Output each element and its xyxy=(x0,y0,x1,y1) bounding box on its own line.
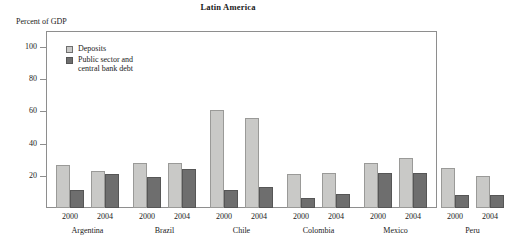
x-axis-year-label: 2000 xyxy=(435,212,475,221)
y-axis-tick-label: 20 xyxy=(0,172,37,180)
x-axis-year-label: 2000 xyxy=(204,212,244,221)
x-axis-year-label: 2004 xyxy=(239,212,279,221)
x-axis-year-label: 2004 xyxy=(470,212,508,221)
x-axis-year-label: 2004 xyxy=(85,212,125,221)
x-axis-year-label: 2000 xyxy=(281,212,321,221)
bar-peru-2004-deposits xyxy=(476,176,490,208)
chart-title: Latin America xyxy=(0,2,456,12)
y-axis-tick-label: 60 xyxy=(0,107,37,115)
bar-peru-2004-debt xyxy=(490,195,504,208)
bars-layer xyxy=(46,31,437,208)
bar-chile-2004-deposits xyxy=(245,118,259,208)
bar-colombia-2004-deposits xyxy=(322,173,336,208)
x-axis-year-label: 2000 xyxy=(50,212,90,221)
bar-peru-2000-deposits xyxy=(441,168,455,208)
bar-chile-2000-deposits xyxy=(210,110,224,208)
bar-mexico-2004-deposits xyxy=(399,158,413,208)
x-axis-year-label: 2000 xyxy=(358,212,398,221)
bar-chile-2000-debt xyxy=(224,190,238,208)
bar-brazil-2000-debt xyxy=(147,177,161,208)
bar-brazil-2004-debt xyxy=(182,169,196,208)
bar-argentina-2004-deposits xyxy=(91,171,105,208)
x-axis-year-label: 2004 xyxy=(162,212,202,221)
bar-argentina-2004-debt xyxy=(105,174,119,208)
bar-mexico-2000-deposits xyxy=(364,163,378,208)
bar-argentina-2000-deposits xyxy=(56,165,70,208)
bar-colombia-2000-debt xyxy=(301,198,315,208)
y-axis-tick-label: 40 xyxy=(0,140,37,148)
bar-brazil-2004-deposits xyxy=(168,163,182,208)
x-axis-country-label-peru: Peru xyxy=(428,226,508,235)
y-axis-tick-label: 80 xyxy=(0,75,37,83)
bar-mexico-2004-debt xyxy=(413,173,427,208)
bar-mexico-2000-debt xyxy=(378,173,392,208)
bar-brazil-2000-deposits xyxy=(133,163,147,208)
bar-peru-2000-debt xyxy=(455,195,469,208)
bar-colombia-2000-deposits xyxy=(287,174,301,208)
bar-chile-2004-debt xyxy=(259,187,273,208)
y-axis-tick-label: 100 xyxy=(0,43,37,51)
x-axis-year-label: 2004 xyxy=(393,212,433,221)
bar-argentina-2000-debt xyxy=(70,190,84,208)
y-axis-unit-label: Percent of GDP xyxy=(16,17,67,26)
x-axis-year-label: 2004 xyxy=(316,212,356,221)
x-axis-year-label: 2000 xyxy=(127,212,167,221)
bar-colombia-2004-debt xyxy=(336,194,350,208)
